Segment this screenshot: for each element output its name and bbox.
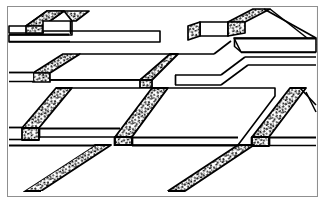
slab-top-face bbox=[234, 38, 316, 52]
slab-top-face bbox=[9, 73, 33, 82]
illustration-figure: Stepped Slab Tessellation Axonometric li… bbox=[0, 0, 325, 203]
slab-top-face bbox=[41, 191, 168, 196]
stippled-cut-edge bbox=[33, 73, 50, 82]
illustration-canvas bbox=[0, 0, 325, 203]
stippled-cut-edge bbox=[22, 128, 39, 140]
stippled-cut-edge bbox=[188, 22, 200, 40]
slab-row-3 bbox=[9, 88, 316, 146]
slab-top-face bbox=[43, 21, 72, 31]
stippled-cut-edge bbox=[140, 80, 152, 88]
stippled-cut-edge bbox=[228, 22, 245, 36]
stippled-cut-edge bbox=[26, 26, 43, 33]
slab-top-face bbox=[200, 22, 228, 36]
stippled-cut-edge bbox=[115, 137, 132, 145]
